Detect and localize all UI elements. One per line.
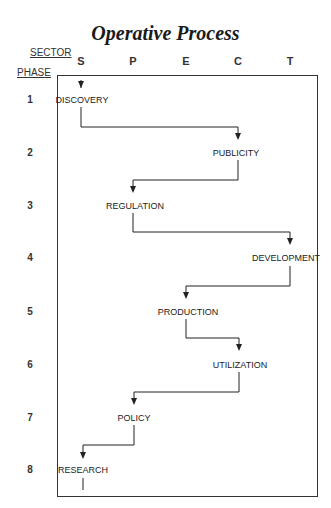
node-research: RESEARCH [58, 465, 108, 475]
node-regulation: REGULATION [106, 201, 164, 211]
node-publicity: PUBLICITY [213, 148, 260, 158]
node-policy: POLICY [117, 413, 150, 423]
node-production: PRODUCTION [158, 307, 219, 317]
node-utilization: UTILIZATION [213, 360, 267, 370]
node-discovery: DISCOVERY [56, 95, 109, 105]
node-development: DEVELOPMENT [252, 253, 320, 263]
